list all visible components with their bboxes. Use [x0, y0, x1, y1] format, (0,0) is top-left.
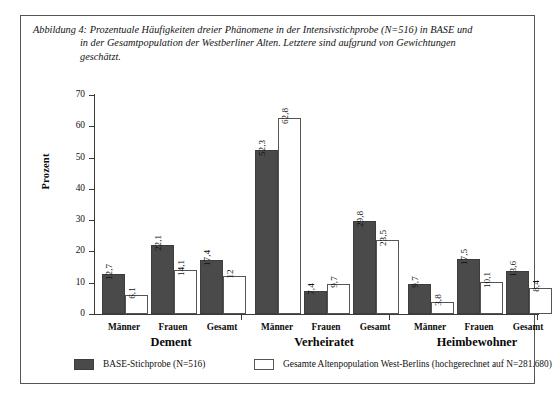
bar-heimbewohner-gesamt-base[interactable]: 13,6: [506, 271, 529, 314]
bar-value-dement-frauen-base: 22,1: [153, 235, 163, 251]
x-sublabel-heimbewohner-frauen: Frauen: [451, 322, 507, 332]
legend-swatch-light-icon: [254, 359, 274, 370]
bar-dement-maenner-pop[interactable]: 6,1: [125, 295, 148, 314]
y-tick-label-40: 40: [76, 183, 85, 193]
bar-value-dement-maenner-base: 12,7: [104, 264, 114, 280]
chart-legend: BASE-Stichprobe (N=516) Gesamte Altenpop…: [21, 356, 534, 376]
caption-line-3: geschätzt.: [33, 50, 525, 63]
bar-dement-gesamt-pop[interactable]: 12: [223, 276, 246, 314]
bar-value-verheiratet-gesamt-base: 29,8: [355, 211, 365, 227]
y-tick-label-10: 10: [76, 277, 85, 287]
bar-value-verheiratet-maenner-base: 52,3: [257, 140, 267, 156]
figure-caption: Abbildung 4: Prozentuale Häufigkeiten dr…: [33, 23, 525, 63]
bar-value-dement-maenner-pop: 6,1: [127, 287, 137, 298]
group-separator-3: [537, 314, 538, 320]
bar-value-heimbewohner-frauen-base: 17,5: [459, 249, 469, 265]
y-tick-50: 50: [89, 158, 95, 159]
bar-value-heimbewohner-gesamt-base: 13,6: [508, 261, 518, 277]
bar-value-heimbewohner-gesamt-pop: 8,4: [531, 280, 541, 291]
bar-value-dement-frauen-pop: 14,1: [176, 260, 186, 276]
bar-heimbewohner-maenner-pop[interactable]: 3,8: [431, 302, 454, 314]
group-separator-2: [389, 314, 390, 320]
legend-label-base-stichprobe: BASE-Stichprobe (N=516): [103, 359, 205, 369]
y-tick-60: 60: [89, 126, 95, 127]
x-sublabel-dement-frauen: Frauen: [145, 322, 201, 332]
bar-value-dement-gesamt-pop: 12: [225, 270, 235, 279]
caption-line-1: Abbildung 4: Prozentuale Häufigkeiten dr…: [33, 23, 525, 36]
y-tick-20: 20: [89, 251, 95, 252]
x-group-label-heimbewohner: Heimbewohner: [387, 335, 553, 350]
x-sublabel-verheiratet-maenner: Männer: [249, 322, 305, 332]
legend-entry-altenpopulation[interactable]: Gesamte Altenpopulation West-Berlins (ho…: [254, 356, 552, 372]
bar-value-verheiratet-maenner-pop: 62,8: [280, 107, 290, 123]
bar-value-heimbewohner-maenner-pop: 3,8: [433, 294, 443, 305]
x-sublabel-verheiratet-frauen: Frauen: [298, 322, 354, 332]
caption-line-2: in der Gesamtpopulation der Westberliner…: [33, 36, 525, 49]
bar-verheiratet-maenner-pop[interactable]: 62,8: [278, 118, 301, 314]
y-tick-label-0: 0: [80, 308, 85, 318]
bar-verheiratet-gesamt-base[interactable]: 29,8: [353, 221, 376, 314]
figure-frame: Abbildung 4: Prozentuale Häufigkeiten dr…: [20, 15, 535, 384]
plot-area: 0 10 20 30 40 50 60 70 12,7 6,1 22,1 14: [95, 95, 539, 314]
bar-heimbewohner-gesamt-pop[interactable]: 8,4: [529, 288, 552, 314]
bar-value-verheiratet-frauen-pop: 9,7: [329, 276, 339, 287]
legend-label-altenpopulation: Gesamte Altenpopulation West-Berlins (ho…: [283, 359, 552, 369]
bar-verheiratet-maenner-base[interactable]: 52,3: [255, 150, 278, 314]
y-tick-label-70: 70: [76, 89, 85, 99]
group-separator-1: [241, 314, 242, 320]
x-sublabel-dement-maenner: Männer: [96, 322, 152, 332]
bar-value-heimbewohner-maenner-base: 9,7: [410, 276, 420, 287]
y-tick-30: 30: [89, 220, 95, 221]
y-axis-title: Prozent: [40, 137, 51, 207]
bar-dement-frauen-pop[interactable]: 14,1: [174, 270, 197, 314]
y-tick-label-30: 30: [76, 214, 85, 224]
bar-value-dement-gesamt-base: 17,4: [202, 250, 212, 266]
y-tick-label-60: 60: [76, 120, 85, 130]
y-tick-label-20: 20: [76, 245, 85, 255]
legend-swatch-dark-icon: [74, 359, 94, 370]
y-tick-40: 40: [89, 189, 95, 190]
y-tick-0: 0: [89, 314, 95, 315]
bar-heimbewohner-maenner-base[interactable]: 9,7: [408, 284, 431, 314]
y-tick-70: 70: [89, 95, 95, 96]
bar-dement-maenner-base[interactable]: 12,7: [102, 274, 125, 314]
x-sublabel-heimbewohner-maenner: Männer: [402, 322, 458, 332]
bar-verheiratet-gesamt-pop[interactable]: 23,5: [376, 240, 399, 314]
bar-value-verheiratet-gesamt-pop: 23,5: [378, 230, 388, 246]
bar-dement-gesamt-base[interactable]: 17,4: [200, 260, 223, 314]
x-sublabel-dement-gesamt: Gesamt: [194, 322, 250, 332]
x-sublabel-verheiratet-gesamt: Gesamt: [347, 322, 403, 332]
bar-heimbewohner-frauen-base[interactable]: 17,5: [457, 259, 480, 314]
bar-value-heimbewohner-frauen-pop: 10,1: [482, 272, 492, 288]
y-tick-label-50: 50: [76, 152, 85, 162]
bar-heimbewohner-frauen-pop[interactable]: 10,1: [480, 282, 503, 314]
legend-entry-base-stichprobe[interactable]: BASE-Stichprobe (N=516): [74, 356, 205, 372]
bar-verheiratet-frauen-base[interactable]: 7,4: [304, 291, 327, 314]
y-tick-10: 10: [89, 283, 95, 284]
bar-verheiratet-frauen-pop[interactable]: 9,7: [327, 284, 350, 314]
chart-area: Prozent 0 10 20 30 40 50 60 70 12,7 6,1: [21, 70, 534, 330]
x-sublabel-heimbewohner-gesamt: Gesamt: [500, 322, 553, 332]
bar-dement-frauen-base[interactable]: 22,1: [151, 245, 174, 314]
x-axis-line: [94, 314, 539, 315]
bar-value-verheiratet-frauen-base: 7,4: [306, 283, 316, 294]
